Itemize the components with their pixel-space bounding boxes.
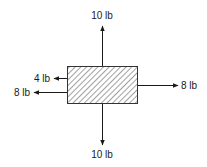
force-down: 10 lb [91, 104, 113, 160]
force-left-lower: 8 lb [14, 87, 67, 98]
free-body-diagram: 10 lb 10 lb 8 lb 4 lb 8 lb [0, 0, 207, 167]
force-left-lower-label: 8 lb [14, 87, 31, 98]
force-up: 10 lb [91, 10, 113, 66]
force-down-label: 10 lb [91, 149, 113, 160]
force-up-label: 10 lb [91, 10, 113, 21]
hatched-body [68, 67, 138, 104]
force-right-label: 8 lb [181, 80, 198, 91]
force-right: 8 lb [138, 80, 198, 91]
force-left-upper: 4 lb [34, 73, 67, 84]
force-left-upper-label: 4 lb [34, 73, 51, 84]
